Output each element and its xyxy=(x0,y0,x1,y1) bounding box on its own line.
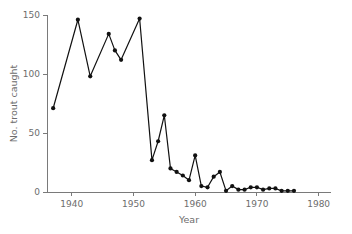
x-axis-title: Year xyxy=(178,214,199,225)
data-point-1963 xyxy=(212,175,216,179)
data-point-1951 xyxy=(138,16,142,20)
data-point-1953 xyxy=(150,158,154,162)
data-point-1967 xyxy=(236,188,240,192)
data-point-1957 xyxy=(175,170,179,174)
trout-catch-line-chart: 050100150 19401950196019701980 No. trout… xyxy=(0,0,352,234)
data-point-1956 xyxy=(168,166,172,170)
data-point-1965 xyxy=(224,189,228,193)
data-series-no-trout-caught xyxy=(51,16,296,192)
data-point-1970 xyxy=(255,185,259,189)
data-point-1954 xyxy=(156,139,160,143)
data-point-1968 xyxy=(242,188,246,192)
data-point-1955 xyxy=(162,113,166,117)
data-point-1962 xyxy=(205,185,209,189)
y-tick-label-50: 50 xyxy=(29,128,41,138)
data-point-1941 xyxy=(76,18,80,22)
y-tick-label-100: 100 xyxy=(23,69,40,79)
y-axis: 050100150 xyxy=(23,10,47,197)
data-point-1948 xyxy=(119,58,123,62)
data-point-1971 xyxy=(261,188,265,192)
data-point-1975 xyxy=(286,189,290,193)
x-tick-label-1950: 1950 xyxy=(122,199,145,209)
data-point-1969 xyxy=(249,185,253,189)
data-point-1958 xyxy=(181,173,185,177)
x-tick-label-1970: 1970 xyxy=(245,199,268,209)
data-point-1946 xyxy=(107,32,111,36)
data-point-1976 xyxy=(292,189,296,193)
y-tick-label-150: 150 xyxy=(23,10,40,20)
data-point-1943 xyxy=(88,74,92,78)
x-tick-label-1960: 1960 xyxy=(184,199,207,209)
data-point-1972 xyxy=(267,186,271,190)
data-point-1959 xyxy=(187,178,191,182)
y-axis-title: No. trout caught xyxy=(8,64,19,142)
data-point-1937 xyxy=(51,106,55,110)
data-point-1947 xyxy=(113,48,117,52)
series-polyline xyxy=(53,19,294,191)
data-point-1966 xyxy=(230,184,234,188)
x-tick-label-1980: 1980 xyxy=(307,199,330,209)
y-tick-label-0: 0 xyxy=(34,187,40,197)
x-axis: 19401950196019701980 xyxy=(47,192,331,209)
data-point-1961 xyxy=(199,184,203,188)
data-point-1974 xyxy=(280,189,284,193)
data-point-1960 xyxy=(193,153,197,157)
data-point-1973 xyxy=(273,186,277,190)
chart-canvas: 050100150 19401950196019701980 No. trout… xyxy=(0,0,352,234)
data-point-1964 xyxy=(218,170,222,174)
x-tick-label-1940: 1940 xyxy=(60,199,83,209)
